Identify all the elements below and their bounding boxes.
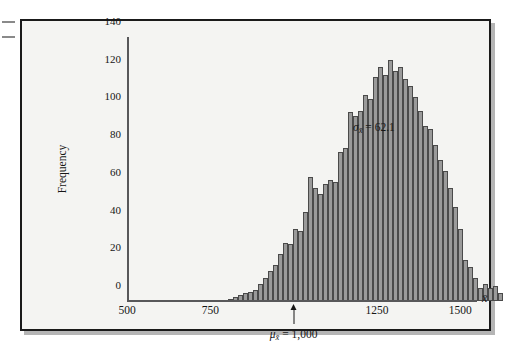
x-axis-title: x̄ [482, 291, 487, 306]
plot-surface: 020406080100120140 Frequency x̄ σx̄ = 62… [22, 21, 489, 329]
sigma-subscript: x̄ [359, 125, 363, 135]
y-axis-tick-0: 0 [116, 279, 122, 291]
mean-arrow-icon [290, 304, 297, 324]
y-axis-tick-40: 40 [110, 204, 121, 216]
page-margin-mark-top [2, 21, 15, 23]
y-axis-tick-20: 20 [110, 241, 121, 253]
mu-value-text: = 1,000 [282, 328, 317, 340]
y-axis-tick-labels: 020406080100120140 [85, 21, 121, 329]
page-margin-mark-second [2, 36, 15, 38]
x-axis-tick-750: 750 [202, 304, 219, 316]
x-axis-tick-1250: 1250 [366, 304, 389, 316]
histogram-bar [498, 293, 503, 301]
y-axis-tick-140: 140 [105, 15, 122, 27]
sigma-value-text: = 62.1 [365, 121, 395, 133]
x-axis-tick-500: 500 [118, 304, 135, 316]
x-bar-symbol: x̄ [482, 291, 487, 305]
y-axis-title: Frequency [56, 145, 68, 194]
mu-annotation: μx̄ = 1,000 [270, 328, 318, 342]
x-axis-tick-1500: 1500 [449, 304, 472, 316]
arrow-shaft [293, 308, 294, 324]
figure-frame: 020406080100120140 Frequency x̄ σx̄ = 62… [20, 19, 491, 331]
x-axis-line [127, 300, 477, 302]
histogram-bars [127, 37, 477, 301]
sigma-annotation: σx̄ = 62.1 [353, 121, 395, 135]
y-axis-tick-120: 120 [105, 53, 122, 65]
y-axis-tick-60: 60 [110, 166, 121, 178]
y-axis-tick-100: 100 [105, 90, 122, 102]
y-axis-tick-80: 80 [110, 128, 121, 140]
mu-subscript: x̄ [276, 332, 280, 342]
